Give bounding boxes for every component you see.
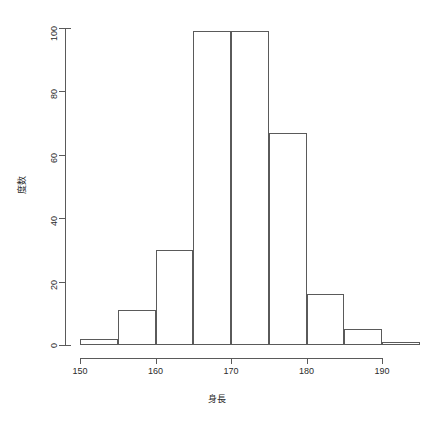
x-axis-tick (307, 358, 308, 364)
histogram-bar (80, 339, 118, 345)
y-axis-tick (59, 345, 65, 346)
y-axis-tick (59, 155, 65, 156)
histogram-bar (231, 31, 269, 345)
x-axis-tick (382, 358, 383, 364)
y-axis-tick-label: 100 (49, 26, 59, 80)
y-axis-tick (59, 282, 65, 283)
y-axis-cap-top (65, 28, 71, 29)
histogram-bar (269, 133, 307, 345)
y-axis-tick-label: 60 (49, 153, 59, 207)
x-axis-tick-label: 180 (287, 366, 327, 376)
x-axis-tick (231, 358, 232, 364)
y-axis-tick-label: 20 (49, 280, 59, 334)
y-axis-title: 度数 (15, 155, 28, 215)
histogram-bar (307, 294, 345, 345)
y-axis-tick-label: 0 (49, 343, 59, 397)
y-axis-tick-label: 80 (49, 89, 59, 143)
y-axis-tick-label: 40 (49, 216, 59, 270)
histogram-bar (344, 329, 382, 345)
x-axis-tick (156, 358, 157, 364)
y-axis-tick (59, 91, 65, 92)
histogram-bar (156, 250, 194, 345)
x-axis-tick (80, 358, 81, 364)
histogram-bar (118, 310, 156, 345)
y-axis-tick (59, 218, 65, 219)
y-axis-tick (59, 28, 65, 29)
y-axis-line (65, 28, 66, 345)
x-axis-tick-label: 150 (60, 366, 100, 376)
histogram-bar (382, 342, 420, 345)
y-axis-cap-bottom (65, 345, 71, 346)
plot-area: 020406080100 150160170180190 身長 度数 (0, 0, 434, 422)
x-axis-tick-label: 160 (136, 366, 176, 376)
x-axis-title: 身長 (0, 392, 434, 405)
histogram-bar (193, 31, 231, 345)
x-axis-tick-label: 170 (211, 366, 251, 376)
histogram-figure: 020406080100 150160170180190 身長 度数 (0, 0, 434, 422)
x-axis-tick-label: 190 (362, 366, 402, 376)
